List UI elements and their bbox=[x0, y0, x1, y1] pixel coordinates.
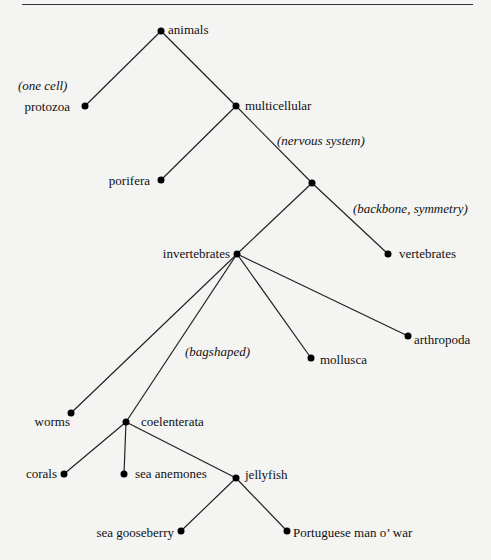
node-dot-mollusca bbox=[308, 355, 315, 362]
label-corals: corals bbox=[26, 467, 57, 480]
label-jellyfish: jellyfish bbox=[245, 468, 288, 481]
node-dot-vertebrates bbox=[385, 251, 392, 258]
node-dot-arthropoda bbox=[405, 333, 412, 340]
label-animals: animals bbox=[168, 23, 208, 36]
label-sea-anemones: sea anemones bbox=[135, 467, 207, 480]
node-dot-multicellular bbox=[233, 103, 240, 110]
label-arthropoda: arthropoda bbox=[414, 333, 470, 346]
annotation-one-cell: (one cell) bbox=[18, 79, 67, 92]
node-dot-protozoa bbox=[82, 103, 89, 110]
node-dot-sea-anemones bbox=[121, 471, 128, 478]
label-mollusca: mollusca bbox=[320, 353, 367, 366]
node-dot-jellyfish bbox=[233, 475, 240, 482]
node-dot-invertebrates bbox=[234, 251, 241, 258]
node-dot-sea-gooseberry bbox=[178, 528, 185, 535]
label-coelenterata: coelenterata bbox=[141, 415, 204, 428]
label-worms: worms bbox=[35, 415, 70, 428]
annotation-backbone-symmetry: (backbone, symmetry) bbox=[353, 202, 468, 215]
node-dot-animals bbox=[158, 28, 165, 35]
node-dot-portuguese bbox=[284, 528, 291, 535]
label-protozoa: protozoa bbox=[25, 100, 70, 113]
label-multicellular: multicellular bbox=[245, 99, 311, 112]
label-vertebrates: vertebrates bbox=[399, 247, 456, 260]
label-portuguese: Portuguese man o’ war bbox=[293, 526, 412, 539]
node-dot-corals bbox=[61, 471, 68, 478]
node-dot-porifera bbox=[158, 177, 165, 184]
label-sea-gooseberry: sea gooseberry bbox=[96, 526, 174, 539]
label-invertebrates: invertebrates bbox=[163, 247, 230, 260]
label-porifera: porifera bbox=[109, 174, 150, 187]
annotation-nervous-system: (nervous system) bbox=[277, 134, 365, 147]
node-dot-nervous-system bbox=[309, 180, 316, 187]
annotation-bagshaped: (bagshaped) bbox=[185, 345, 250, 358]
node-dot-coelenterata bbox=[123, 419, 130, 426]
